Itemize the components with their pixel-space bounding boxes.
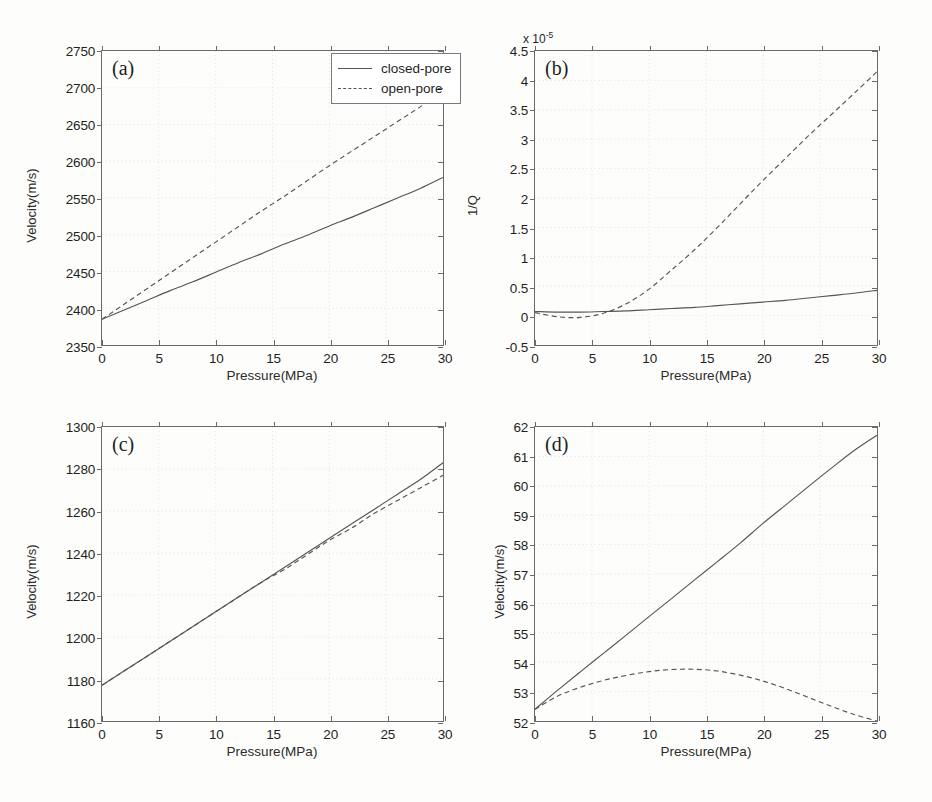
panel-b-ytick-mark <box>530 140 535 141</box>
panel-d-xtick-label: 30 <box>872 727 887 742</box>
panel-a-ytick-label: 2350 <box>66 340 95 355</box>
panel-a-xtick-label: 15 <box>266 351 281 366</box>
panel-c-xtick-label: 30 <box>438 727 453 742</box>
panel-b-ytick-mark-right <box>872 229 877 230</box>
panel-c-xtick-label: 20 <box>323 727 338 742</box>
panel-c-xtick-mark <box>388 716 389 721</box>
panel-a-ytick-mark <box>97 199 102 200</box>
panel-c-xtick-mark <box>445 716 446 721</box>
panel-d-ytick-label: 62 <box>513 420 528 435</box>
panel-c-ytick-mark <box>97 427 102 428</box>
panel-b-xtick-mark <box>535 340 536 345</box>
panel-a-xtick-label: 25 <box>381 351 396 366</box>
panel-c-xtick-mark-top <box>159 422 160 427</box>
panel-a-axes: (a) closed-pore open-pore 23502400245025… <box>101 50 444 346</box>
panel-a-ytick-mark <box>97 88 102 89</box>
legend-line-solid-icon <box>338 68 372 69</box>
panel-d-ytick-mark-right <box>872 575 877 576</box>
panel-d-xtick-label: 20 <box>757 727 772 742</box>
panel-b-ytick-mark <box>530 258 535 259</box>
panel-b-ytick-mark-right <box>872 51 877 52</box>
panel-d-ytick-mark-right <box>872 486 877 487</box>
panel-b-ytick-label: 2 <box>521 192 528 207</box>
panel-a-ytick-mark <box>97 236 102 237</box>
panel-c-ytick-mark-right <box>438 427 443 428</box>
panel-d-xtick-mark-top <box>650 422 651 427</box>
panel-c-xtick-mark-top <box>388 422 389 427</box>
panel-b-xtick-label: 30 <box>872 351 887 366</box>
panel-d-axes: (d) 5253545556575859606162051015202530 <box>534 426 878 722</box>
panel-b: (b) -0.500.511.522.533.544.5051015202530… <box>466 0 932 401</box>
panel-c-ytick-label: 1160 <box>67 716 95 731</box>
panel-d-xtick-mark <box>764 716 765 721</box>
panel-d-ytick-label: 61 <box>513 449 528 464</box>
panel-b-curves <box>535 51 877 345</box>
panel-c-xlabel: Pressure(MPa) <box>227 744 318 759</box>
panel-a-ylabel: Velocity(m/s) <box>24 168 39 242</box>
panel-c-xtick-mark <box>159 716 160 721</box>
panel-d-ytick-mark <box>530 575 535 576</box>
curve-closed-pore <box>535 435 877 709</box>
panel-b-ytick-mark-right <box>872 199 877 200</box>
panel-d-ytick-label: 60 <box>513 479 528 494</box>
panel-d-ytick-label: 53 <box>513 686 528 701</box>
panel-d-ytick-mark <box>530 664 535 665</box>
panel-b-xtick-mark-top <box>707 46 708 51</box>
panel-b-ytick-label: 3.5 <box>510 103 528 118</box>
panel-b-ytick-mark-right <box>872 169 877 170</box>
panel-b-ytick-mark-right <box>872 258 877 259</box>
panel-b-xtick-mark <box>592 340 593 345</box>
panel-c-xtick-mark-top <box>274 422 275 427</box>
panel-d-ytick-mark-right <box>872 634 877 635</box>
panel-c-ytick-mark-right <box>438 596 443 597</box>
panel-b-axes: (b) -0.500.511.522.533.544.5051015202530 <box>534 50 878 346</box>
panel-b-ytick-mark-right <box>872 140 877 141</box>
panel-b-xtick-mark <box>822 340 823 345</box>
panel-a-ytick-mark <box>97 347 102 348</box>
panel-b-ytick-label: -0.5 <box>506 340 528 355</box>
panel-d-xtick-mark <box>879 716 880 721</box>
panel-a-ytick-mark <box>97 162 102 163</box>
panel-a-ytick-mark-right <box>438 125 443 126</box>
panel-b-tag: (b) <box>545 57 568 80</box>
panel-d-xtick-label: 15 <box>700 727 715 742</box>
panel-c-ytick-mark-right <box>438 681 443 682</box>
panel-b-xtick-label: 20 <box>757 351 772 366</box>
panel-d-ytick-label: 58 <box>513 538 528 553</box>
panel-b-ytick-mark <box>530 347 535 348</box>
panel-c-ytick-mark-right <box>438 723 443 724</box>
panel-c-xtick-mark-top <box>102 422 103 427</box>
panel-b-ytick-mark-right <box>872 317 877 318</box>
panel-b-ytick-mark <box>530 199 535 200</box>
panel-c-ytick-mark <box>97 681 102 682</box>
panel-a-xtick-mark-top <box>445 46 446 51</box>
panel-a-ytick-label: 2550 <box>66 192 95 207</box>
panel-c-axes: (c) 116011801200122012401260128013000510… <box>101 426 444 722</box>
panel-d-ylabel: Velocity(m/s) <box>492 544 507 618</box>
panel-b-xtick-label: 15 <box>700 351 715 366</box>
panel-d-xtick-mark-top <box>764 422 765 427</box>
panel-a-ytick-label: 2650 <box>66 118 95 133</box>
panel-b-xtick-mark-top <box>592 46 593 51</box>
panel-d-ytick-mark-right <box>872 516 877 517</box>
panel-d-xtick-mark <box>535 716 536 721</box>
panel-a-ytick-mark-right <box>438 347 443 348</box>
panel-d-xtick-mark <box>707 716 708 721</box>
panel-d-ytick-mark <box>530 545 535 546</box>
panel-d-ytick-mark <box>530 457 535 458</box>
panel-c: (c) 116011801200122012401260128013000510… <box>0 401 466 802</box>
panel-b-ytick-label: 1.5 <box>510 221 528 236</box>
panel-c-ytick-mark <box>97 596 102 597</box>
panel-a-xtick-mark-top <box>159 46 160 51</box>
panel-a-ytick-label: 2700 <box>66 81 95 96</box>
panel-d-xtick-mark-top <box>592 422 593 427</box>
panel-d-ytick-label: 56 <box>513 597 528 612</box>
panel-a-xtick-mark-top <box>331 46 332 51</box>
panel-b-ytick-mark <box>530 51 535 52</box>
panel-a-ytick-mark-right <box>438 310 443 311</box>
panel-c-ytick-mark-right <box>438 469 443 470</box>
panel-b-xlabel: Pressure(MPa) <box>661 368 752 383</box>
panel-d-ytick-mark <box>530 605 535 606</box>
panel-a-ytick-mark-right <box>438 236 443 237</box>
panel-b-ylabel: 1/Q <box>465 195 480 216</box>
